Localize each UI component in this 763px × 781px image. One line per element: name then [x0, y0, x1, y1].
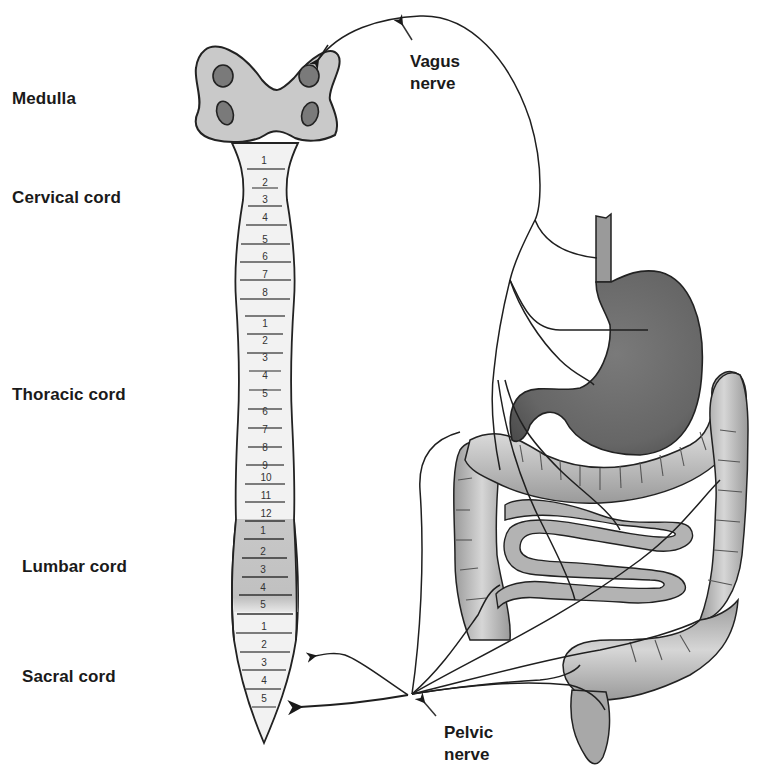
- svg-text:2: 2: [262, 335, 268, 346]
- svg-text:5: 5: [260, 599, 266, 610]
- svg-text:8: 8: [262, 287, 268, 298]
- pelvic-nerve-upper-arrow: [315, 653, 408, 695]
- svg-text:4: 4: [262, 212, 268, 223]
- vagus-label-pointer: [402, 24, 412, 40]
- esophagus: [596, 214, 611, 282]
- anatomy-illustration: 1 2 3 4 5 6 7 8 1 2 3 4 5 6 7 8 9 10 11 …: [0, 0, 763, 781]
- svg-text:4: 4: [260, 582, 266, 593]
- nucleus-upper-left: [213, 65, 233, 87]
- svg-text:8: 8: [262, 442, 268, 453]
- svg-text:1: 1: [262, 318, 268, 329]
- rectum: [571, 690, 610, 764]
- svg-text:3: 3: [261, 657, 267, 668]
- svg-text:7: 7: [262, 269, 268, 280]
- svg-text:3: 3: [262, 194, 268, 205]
- svg-text:7: 7: [262, 424, 268, 435]
- svg-text:10: 10: [260, 472, 272, 483]
- svg-text:4: 4: [261, 675, 267, 686]
- svg-text:6: 6: [262, 251, 268, 262]
- svg-text:5: 5: [261, 693, 267, 704]
- pelvic-nerve-lower-arrow: [300, 695, 408, 707]
- medulla-shape: [196, 47, 340, 142]
- svg-text:1: 1: [260, 525, 266, 536]
- svg-text:3: 3: [260, 564, 266, 575]
- svg-text:2: 2: [262, 177, 268, 188]
- svg-text:1: 1: [261, 621, 267, 632]
- svg-text:6: 6: [262, 406, 268, 417]
- svg-text:1: 1: [261, 155, 267, 166]
- svg-text:2: 2: [260, 546, 266, 557]
- svg-text:2: 2: [261, 639, 267, 650]
- svg-text:3: 3: [262, 352, 268, 363]
- vagus-nerve-trunk: [318, 16, 540, 220]
- pelvic-label-pointer: [424, 702, 436, 716]
- svg-text:5: 5: [262, 388, 268, 399]
- nucleus-upper-right: [299, 65, 319, 87]
- svg-text:4: 4: [262, 370, 268, 381]
- svg-text:12: 12: [260, 508, 272, 519]
- svg-text:5: 5: [262, 234, 268, 245]
- svg-text:11: 11: [261, 490, 272, 501]
- svg-text:9: 9: [262, 460, 268, 471]
